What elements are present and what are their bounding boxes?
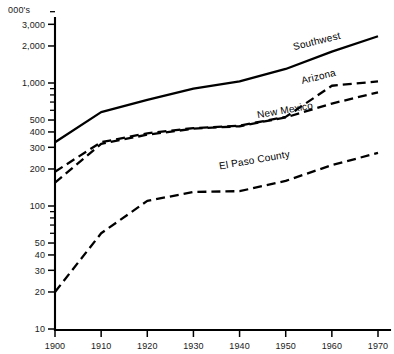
y-tick-label: 100 xyxy=(30,201,45,211)
x-tick-label: 1940 xyxy=(229,341,249,351)
y-tick-label: 10 xyxy=(35,324,45,334)
series-label-el-paso-county: El Paso County xyxy=(218,148,291,171)
series-label-arizona: Arizona xyxy=(300,67,337,86)
x-tick-label: 1970 xyxy=(368,341,388,351)
x-tick-label: 1910 xyxy=(91,341,111,351)
population-growth-chart: 000's 10203040501002003004005001,0002,00… xyxy=(0,0,394,354)
chart-canvas: 000's 10203040501002003004005001,0002,00… xyxy=(0,0,394,354)
series-label-southwest: Southwest xyxy=(292,30,342,52)
axes-group xyxy=(55,18,390,330)
y-tick-label: 500 xyxy=(30,115,45,125)
y-tick-label: 200 xyxy=(30,164,45,174)
y-tick-label: 40 xyxy=(35,250,45,260)
x-tick-label: 1960 xyxy=(322,341,342,351)
y-tick-label: 50 xyxy=(35,238,45,248)
y-tick-label: 3,000 xyxy=(22,20,45,30)
series-line-el-paso-county xyxy=(55,153,378,292)
x-axis-ticks: 19001910192019301940195019601970 xyxy=(45,330,388,351)
y-tick-label: 400 xyxy=(30,127,45,137)
x-tick-label: 1950 xyxy=(276,341,296,351)
y-axis-ticks: 10203040501002003004005001,0002,0003,000 xyxy=(22,20,55,335)
y-tick-label: 2,000 xyxy=(22,41,45,51)
x-tick-label: 1900 xyxy=(45,341,65,351)
series-line-new-mexico xyxy=(55,92,378,182)
series-annotations: SouthwestArizonaNew MexicoEl Paso County xyxy=(218,30,341,172)
y-axis-title: 000's xyxy=(8,5,31,15)
y-tick-label: 20 xyxy=(35,287,45,297)
y-tick-label: 30 xyxy=(35,266,45,276)
y-tick-label: 1,000 xyxy=(22,78,45,88)
x-tick-label: 1920 xyxy=(137,341,157,351)
x-tick-label: 1930 xyxy=(183,341,203,351)
y-tick-label: 300 xyxy=(30,143,45,153)
